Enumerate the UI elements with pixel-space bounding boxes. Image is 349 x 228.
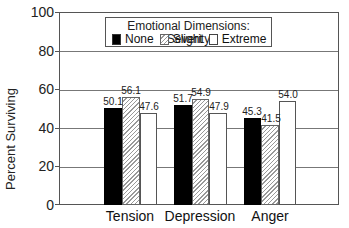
bar-tension-none	[104, 108, 122, 205]
value-label-depression-slight: 54.9	[189, 88, 213, 98]
value-label-anger-extreme: 54.0	[276, 90, 300, 100]
legend-label-none: None	[125, 33, 154, 45]
y-tick-label-100: 100	[26, 5, 54, 19]
bar-anger-none	[244, 118, 261, 205]
legend-item-extreme: Extreme	[209, 33, 267, 45]
value-label-tension-slight: 56.1	[119, 86, 143, 96]
x-tick-label-depression: Depression	[160, 208, 240, 224]
value-label-anger-slight: 41.5	[259, 114, 283, 124]
y-tick-label-0: 0	[26, 198, 54, 212]
bar-depression-slight	[192, 99, 209, 205]
bar-tension-extreme	[140, 113, 157, 205]
legend-items: None Slight Extreme	[112, 33, 266, 45]
y-axis-title: Percent Surviving	[3, 88, 18, 190]
legend-swatch-hatched-icon	[160, 34, 169, 45]
legend-item-none: None	[112, 33, 154, 45]
y-tick-label-40: 40	[26, 121, 54, 135]
legend-item-slight: Slight	[160, 33, 203, 45]
bar-tension-slight	[122, 97, 140, 205]
value-label-depression-extreme: 47.9	[207, 102, 231, 112]
gridline-80	[60, 51, 338, 52]
y-tick-label-80: 80	[26, 44, 54, 58]
legend-label-slight: Slight	[173, 33, 203, 45]
bar-anger-slight	[261, 125, 279, 205]
bar-depression-extreme	[209, 113, 227, 205]
legend-label-extreme: Extreme	[222, 33, 267, 45]
legend: Emotional Dimensions: Severity None Slig…	[105, 17, 272, 47]
y-tick-label-20: 20	[26, 159, 54, 173]
legend-swatch-empty-icon	[209, 34, 218, 45]
y-tick-label-60: 60	[26, 82, 54, 96]
bar-depression-none	[174, 105, 192, 205]
value-label-tension-none: 50.1	[101, 97, 125, 107]
x-tick-label-tension: Tension	[90, 208, 170, 224]
legend-swatch-solid-icon	[112, 34, 121, 45]
x-tick-label-anger: Anger	[230, 208, 310, 224]
value-label-tension-extreme: 47.6	[137, 102, 161, 112]
